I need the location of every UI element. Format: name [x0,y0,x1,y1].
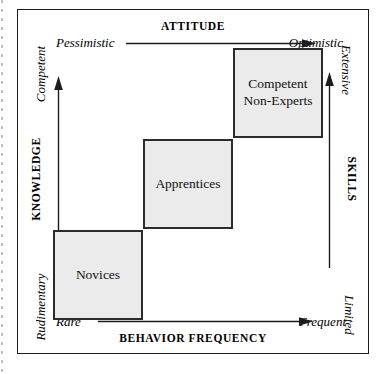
axis-label-pessimistic: Pessimistic [56,35,115,51]
matrix-cell-apprentices[interactable]: Apprentices [143,139,233,229]
matrix-cell-label-line-2: Non-Experts [244,93,313,108]
up-arrow-icon-skills [325,72,334,268]
scan-page-edge [1,0,3,374]
matrix-cell-label: Novices [72,267,124,284]
axis-title-behavior-frequency: BEHAVIOR FREQUENCY [18,332,368,344]
axis-label-extensive: Extensive [338,34,354,106]
diagram-frame: ATTITUDE Pessimistic Optimistic BEHAVIOR… [17,9,369,354]
axis-title-attitude: ATTITUDE [18,20,368,32]
axis-label-competent: Competent [33,37,49,111]
matrix-cell-label: Competent Non-Experts [240,76,317,110]
axis-label-limited: Limited [341,284,357,346]
axis-title-skills: SKILLS [346,139,358,219]
matrix-cell-label-line-1: Competent [248,76,307,91]
axis-title-knowledge: KNOWLEDGE [30,134,42,224]
axis-label-rudimentary: Rudimentary [33,262,49,352]
matrix-cell-competent-non-experts[interactable]: Competent Non-Experts [233,48,323,138]
right-arrow-icon-attitude [126,39,316,48]
matrix-cell-novices[interactable]: Novices [53,230,143,320]
matrix-cell-label: Apprentices [151,176,224,193]
